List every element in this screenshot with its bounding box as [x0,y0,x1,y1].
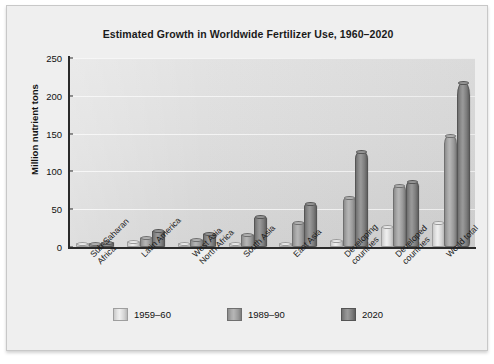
legend-item: 1989–90 [227,308,285,321]
bar-cap [305,202,316,206]
x-axis-labels: Sub-SaharanAfricaLatin AmericaWest AsiaN… [69,250,475,310]
bar-cap [230,242,241,246]
bar-group [374,58,425,247]
bar-group [424,58,475,247]
chart-figure: Estimated Growth in Worldwide Fertilizer… [6,5,488,351]
bar-cap [255,215,266,219]
bars-layer [69,58,475,247]
legend-swatch [113,308,128,321]
legend-swatch [341,308,356,321]
bar-group [221,58,272,247]
chart-legend: 1959–601989–902020 [7,308,489,321]
bar-cap [394,184,405,188]
bar-group [323,58,374,247]
legend-label: 1989–90 [248,309,285,320]
y-tick-label: 100 [22,166,62,177]
chart-title: Estimated Growth in Worldwide Fertilizer… [7,28,489,40]
y-tick-label: 0 [22,242,62,253]
bar-cap [356,150,367,154]
bar-cap [128,240,139,244]
bar [127,241,140,247]
y-tick-label: 250 [22,53,62,64]
bar [76,243,89,248]
screenshot-root: Estimated Growth in Worldwide Fertilizer… [0,0,494,364]
bar [229,243,242,248]
legend-label: 1959–60 [134,309,171,320]
bar-cap [433,221,444,225]
y-tick-label: 150 [22,128,62,139]
bar-cap [344,196,355,200]
bar-cap [179,242,190,246]
bar [393,185,406,247]
bar-cap [242,233,253,237]
bar-cap [407,180,418,184]
bar-cap [382,225,393,229]
bar-cap [280,242,291,246]
bar-cap [293,221,304,225]
bar [279,243,292,248]
bar-group [69,58,120,247]
bar-cap [77,242,88,246]
bar-group [272,58,323,247]
legend-swatch [227,308,242,321]
legend-item: 2020 [341,308,383,321]
y-tick-label: 200 [22,90,62,101]
y-tick-label: 50 [22,204,62,215]
bar-cap [445,134,456,138]
bar-cap [458,81,469,85]
bar-cap [331,239,342,243]
legend-label: 2020 [362,309,383,320]
bar [330,240,343,247]
bar [444,135,457,247]
legend-item: 1959–60 [113,308,171,321]
bar [457,82,470,247]
bar [178,243,191,248]
